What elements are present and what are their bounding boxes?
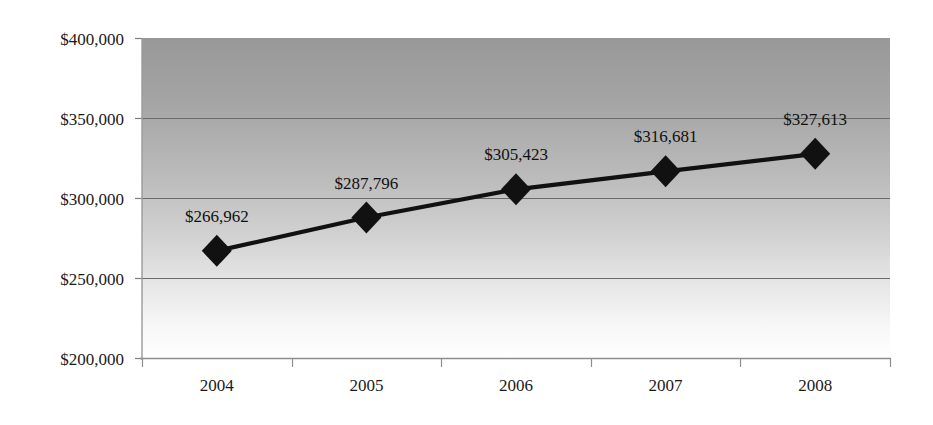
y-axis-tick-label: $400,000 <box>60 30 124 49</box>
line-chart: $400,000$350,000$300,000$250,000$200,000… <box>0 0 933 425</box>
x-axis-category-label: 2007 <box>649 376 684 395</box>
data-point-label: $316,681 <box>634 127 698 146</box>
x-axis-category-label: 2008 <box>798 376 832 395</box>
y-axis-tick-label: $250,000 <box>60 270 124 289</box>
data-point-label: $305,423 <box>484 145 548 164</box>
y-axis-tick-label: $300,000 <box>60 190 124 209</box>
chart-canvas: $400,000$350,000$300,000$250,000$200,000… <box>0 0 933 425</box>
data-point-label: $266,962 <box>185 207 249 226</box>
x-axis-category-label: 2004 <box>200 376 235 395</box>
x-axis-category-label: 2006 <box>499 376 533 395</box>
y-axis-tick-label: $200,000 <box>60 350 124 369</box>
data-point-label: $287,796 <box>335 174 399 193</box>
x-axis-category-label: 2005 <box>349 376 383 395</box>
y-axis-tick-label: $350,000 <box>60 110 124 129</box>
data-point-label: $327,613 <box>783 110 847 129</box>
